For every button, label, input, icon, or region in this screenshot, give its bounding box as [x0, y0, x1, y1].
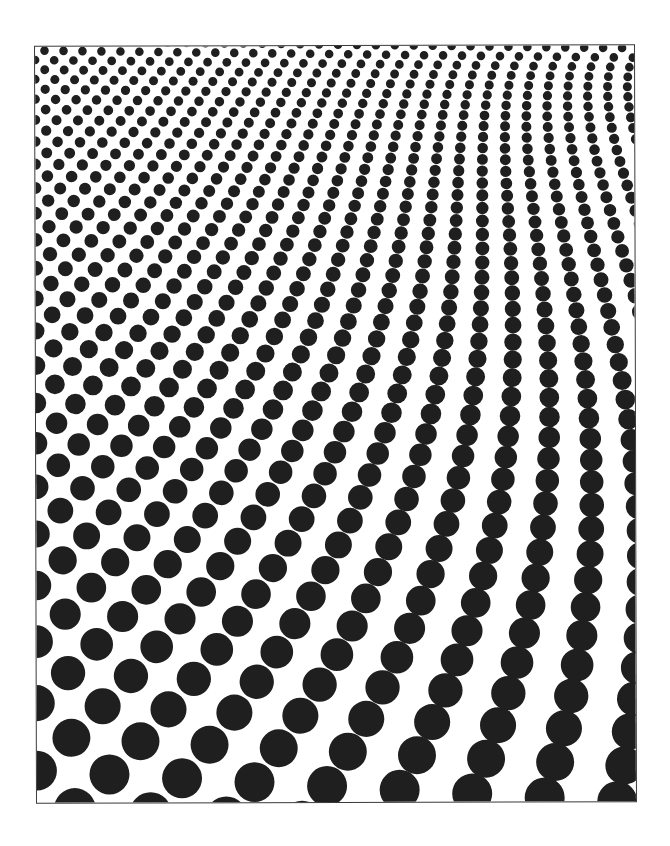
halftone-dot [325, 50, 334, 59]
halftone-dot [271, 151, 282, 162]
halftone-dot [153, 436, 176, 459]
halftone-dot [543, 122, 553, 132]
halftone-dot [572, 53, 581, 62]
halftone-dot [581, 216, 594, 229]
halftone-dot [96, 499, 122, 525]
halftone-dot [266, 328, 283, 345]
halftone-dot [43, 247, 57, 261]
halftone-dot [348, 200, 360, 212]
halftone-dot [351, 69, 360, 78]
halftone-dot [571, 592, 601, 622]
halftone-dot [480, 111, 490, 121]
halftone-dot [564, 272, 579, 287]
halftone-dot [276, 140, 287, 151]
halftone-dot [542, 111, 552, 121]
halftone-dot [414, 704, 450, 740]
halftone-dot [503, 242, 517, 256]
halftone-dot [522, 143, 533, 154]
halftone-dot [85, 688, 121, 724]
halftone-dot [449, 227, 462, 240]
halftone-dot [200, 633, 233, 666]
halftone-dot [235, 380, 255, 400]
halftone-dot [235, 68, 244, 77]
halftone-dot [203, 58, 212, 67]
halftone-dot [210, 361, 229, 380]
halftone-dot [425, 385, 445, 405]
halftone-dot [572, 335, 589, 352]
halftone-dot [447, 45, 456, 50]
halftone-dot [429, 70, 438, 79]
halftone-dot [626, 594, 636, 624]
halftone-dot [376, 60, 385, 69]
halftone-dot [187, 107, 197, 117]
halftone-dot [374, 200, 386, 212]
halftone-dot [40, 65, 49, 74]
halftone-dot [386, 79, 395, 88]
halftone-dot [35, 356, 45, 375]
halftone-dot [607, 217, 620, 230]
halftone-dot [491, 676, 525, 710]
halftone-dot [278, 186, 290, 198]
halftone-dot [70, 476, 95, 501]
halftone-dot [343, 141, 354, 152]
halftone-dot [467, 740, 505, 778]
halftone-dot [116, 116, 126, 126]
halftone-dot [250, 295, 266, 311]
halftone-dot [121, 722, 159, 760]
halftone-dot [332, 175, 344, 187]
halftone-dot [78, 47, 87, 56]
halftone-dot [417, 110, 427, 120]
halftone-dot [476, 189, 488, 201]
halftone-dot [55, 207, 68, 220]
halftone-dot [448, 70, 457, 79]
halftone-dot [353, 45, 362, 49]
halftone-dot [399, 99, 408, 108]
halftone-dot [218, 295, 234, 311]
halftone-dot [524, 166, 535, 177]
halftone-dot [487, 71, 496, 80]
halftone-dot [283, 174, 295, 186]
halftone-dot [276, 98, 285, 107]
halftone-dot [80, 340, 98, 358]
halftone-dot [505, 285, 521, 301]
halftone-dot [364, 558, 392, 586]
halftone-dot [282, 88, 291, 97]
halftone-dot [566, 620, 597, 651]
halftone-dot [476, 241, 490, 255]
halftone-dot [114, 659, 148, 693]
halftone-dot [35, 290, 44, 306]
halftone-dot [496, 52, 505, 61]
halftone-dot [259, 280, 275, 296]
halftone-dot [415, 423, 437, 445]
halftone-dot [216, 250, 230, 264]
halftone-dot [500, 166, 511, 177]
halftone-dot [371, 213, 384, 226]
halftone-dot [362, 152, 373, 163]
halftone-dot [184, 397, 205, 418]
halftone-dot [294, 151, 305, 162]
halftone-dot [627, 542, 636, 569]
halftone-dot [147, 263, 162, 278]
halftone-dot [75, 137, 86, 148]
halftone-dot [359, 164, 370, 175]
halftone-dot [375, 109, 385, 119]
halftone-dot [538, 334, 555, 351]
halftone-dot [507, 71, 516, 80]
halftone-dot [344, 50, 353, 59]
halftone-dot [244, 118, 254, 128]
halftone-dot [628, 288, 636, 304]
halftone-dot [430, 165, 441, 176]
halftone-dot [308, 119, 318, 129]
halftone-dot [129, 76, 138, 85]
halftone-dot [289, 506, 315, 532]
halftone-dot [567, 144, 578, 155]
halftone-dot [521, 564, 549, 592]
halftone-dot [61, 85, 70, 94]
halftone-dot [218, 161, 229, 172]
halftone-dot [197, 326, 214, 343]
halftone-dot [271, 108, 281, 118]
halftone-dot [377, 188, 389, 200]
halftone-dot [445, 80, 454, 89]
halftone-dot [402, 331, 419, 348]
halftone-dot [477, 154, 488, 165]
